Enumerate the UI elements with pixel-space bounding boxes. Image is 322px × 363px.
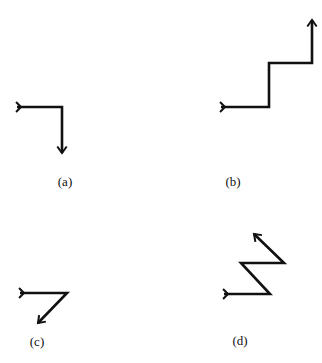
panel-label-d: (d) xyxy=(232,333,247,349)
panel-label-b: (b) xyxy=(225,174,240,190)
path-line-c xyxy=(20,293,67,323)
path-b xyxy=(220,20,317,112)
path-line-b xyxy=(221,20,312,107)
path-line-d xyxy=(224,234,284,294)
path-d xyxy=(223,234,284,299)
path-c xyxy=(19,288,67,323)
diagram-canvas xyxy=(0,0,322,363)
path-a xyxy=(16,102,67,153)
path-line-a xyxy=(17,107,62,153)
panel-label-a: (a) xyxy=(58,174,72,190)
panel-label-c: (c) xyxy=(30,334,44,350)
